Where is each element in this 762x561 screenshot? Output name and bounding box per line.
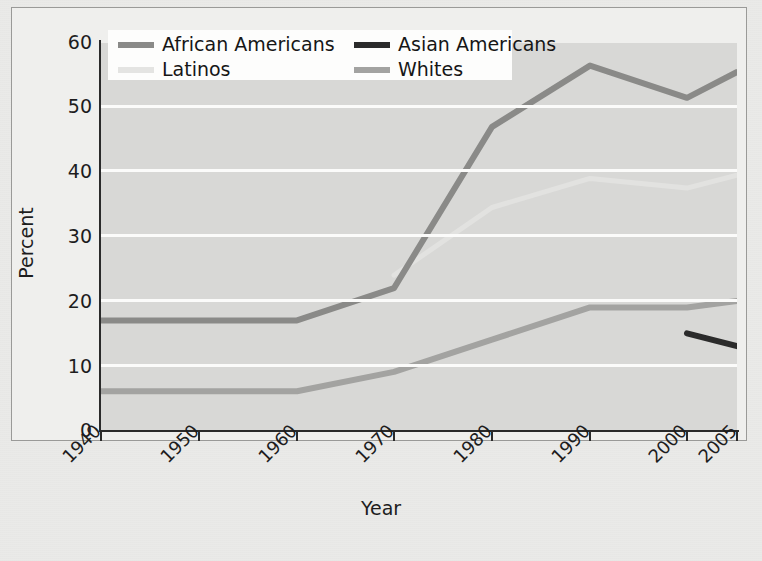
y-tick-40: 40: [40, 162, 92, 181]
figure-page: #series-svg polyline[data-name="series-l…: [0, 0, 762, 561]
plot-area: [101, 43, 737, 430]
legend-label-latinos: Latinos: [162, 60, 231, 79]
legend-item-whites[interactable]: Whites: [354, 60, 522, 79]
gridline-40: [101, 169, 737, 172]
gridline-10: [101, 364, 737, 367]
series-line-latinos: [394, 175, 737, 275]
legend-item-asian-americans[interactable]: Asian Americans: [354, 35, 522, 54]
chart-legend: African Americans Asian Americans Latino…: [108, 30, 512, 80]
legend-label-african-americans: African Americans: [162, 35, 335, 54]
y-tick-60: 60: [40, 33, 92, 52]
y-tick-labels: 60 50 40 30 20 10 0: [40, 0, 92, 561]
legend-swatch-icon: [118, 42, 154, 48]
figure-area: #series-svg polyline[data-name="series-l…: [0, 0, 762, 561]
legend-item-african-americans[interactable]: African Americans: [118, 35, 354, 54]
y-tick-30: 30: [40, 227, 92, 246]
y-axis-line: [99, 40, 101, 432]
legend-swatch-icon: [118, 67, 154, 73]
y-tick-20: 20: [40, 292, 92, 311]
x-axis-title: Year: [0, 497, 762, 519]
gridline-30: [101, 234, 737, 237]
y-tick-50: 50: [40, 97, 92, 116]
series-line-whites: [101, 301, 737, 391]
gridline-20: [101, 299, 737, 302]
legend-swatch-icon: [354, 42, 390, 48]
legend-label-whites: Whites: [398, 60, 463, 79]
legend-swatch-icon: [354, 67, 390, 73]
y-axis-title: Percent: [15, 207, 37, 279]
series-line-african-americans: [101, 66, 737, 321]
y-tick-10: 10: [40, 357, 92, 376]
series-line-asian-americans: [687, 333, 737, 346]
legend-label-asian-americans: Asian Americans: [398, 35, 556, 54]
gridline-50: [101, 105, 737, 108]
legend-item-latinos[interactable]: Latinos: [118, 60, 354, 79]
